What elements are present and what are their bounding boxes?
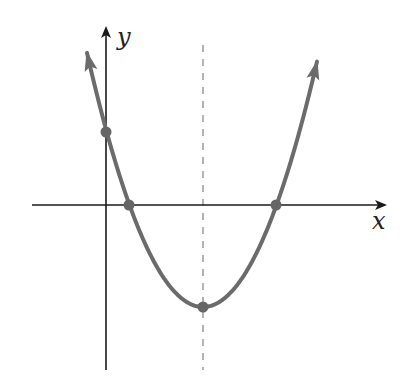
left-x-intercept-point [124, 200, 135, 211]
y-intercept-point [101, 127, 112, 138]
parabola-graph: y x [0, 0, 406, 392]
y-axis-label: y [116, 23, 131, 51]
parabola-curve [87, 53, 317, 307]
right-x-intercept-point [271, 200, 282, 211]
vertex-point [198, 302, 209, 313]
x-axis-label: x [372, 207, 386, 235]
